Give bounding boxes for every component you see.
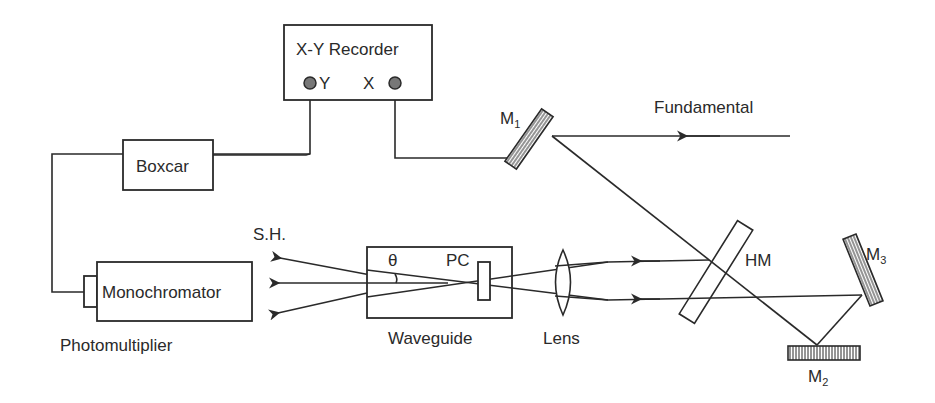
- hm-label: HM: [745, 251, 771, 270]
- xy-recorder-label: X-Y Recorder: [296, 40, 399, 59]
- pc-label: PC: [446, 251, 470, 270]
- mirror-m2-icon: [788, 346, 860, 360]
- lens: Lens: [543, 250, 608, 348]
- x-port-icon: [389, 77, 401, 89]
- sh-beam-lower: [278, 291, 376, 313]
- m1-label: M1: [500, 109, 520, 130]
- photomultiplier-stub: [84, 276, 97, 307]
- xy-recorder: X-Y Recorder Y X: [284, 25, 432, 100]
- optical-setup-diagram: X-Y Recorder Y X Boxcar Monochromator Ph…: [0, 0, 935, 403]
- pc-element: [478, 262, 490, 300]
- second-harmonic-beams: S.H.: [253, 225, 376, 313]
- sh-beam-upper: [280, 258, 376, 276]
- boxcar-label: Boxcar: [136, 157, 189, 176]
- boxcar: Boxcar: [123, 140, 213, 190]
- y-port-icon: [304, 77, 316, 89]
- m3-label: M3: [866, 245, 886, 266]
- half-mirror-icon: [679, 221, 753, 324]
- sh-label: S.H.: [253, 225, 286, 244]
- monochromator-label: Monochromator: [102, 283, 221, 302]
- y-port-label: Y: [319, 74, 330, 93]
- theta-label: θ: [388, 251, 397, 270]
- photomultiplier-label: Photomultiplier: [60, 336, 173, 355]
- monochromator: Monochromator Photomultiplier: [60, 262, 252, 355]
- mirror-m1: M1: [500, 109, 553, 169]
- x-port-label: X: [363, 74, 374, 93]
- beam-m2-to-m3: [817, 295, 862, 345]
- xy-recorder-box: [284, 25, 432, 100]
- m2-label: M2: [808, 367, 828, 388]
- mirror-m2: M2: [788, 346, 860, 388]
- fundamental-label: Fundamental: [654, 98, 753, 117]
- lens-label: Lens: [543, 329, 580, 348]
- beam-m1-to-m2: [552, 136, 817, 345]
- waveguide-label: Waveguide: [388, 329, 472, 348]
- lens-shape: [556, 250, 571, 315]
- fundamental-beam: Fundamental: [552, 98, 862, 345]
